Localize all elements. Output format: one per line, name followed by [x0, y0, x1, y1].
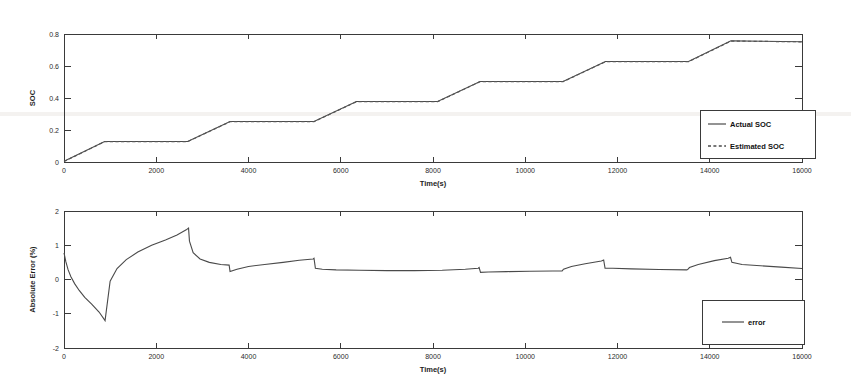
error-ytick-label-3: 1	[55, 242, 59, 249]
soc-xtick-label-3: 6000	[333, 167, 349, 174]
error-y-axis-title: Absolute Error (%)	[28, 246, 37, 313]
soc-xtick-label-8: 16000	[792, 167, 812, 174]
soc-estimated-series	[64, 41, 802, 161]
soc-ytick-label-0: 0	[55, 159, 59, 166]
soc-xtick-label-5: 10000	[516, 167, 536, 174]
soc-ytick-label-4: 0.8	[49, 31, 59, 38]
error-xtick-label-6: 12000	[608, 353, 628, 360]
error-xtick-label-4: 8000	[425, 353, 441, 360]
soc-x-axis-title: Time(s)	[420, 179, 447, 188]
soc-ytick-label-2: 0.4	[49, 95, 59, 102]
error-xtick-label-1: 2000	[148, 353, 164, 360]
soc-actual-series	[64, 41, 802, 161]
error-ytick-label-4: 2	[55, 208, 59, 215]
soc-legend[interactable]: Actual SOC Estimated SOC	[700, 110, 815, 158]
legend-label-estimated-soc: Estimated SOC	[730, 142, 785, 151]
error-xtick-label-2: 4000	[241, 353, 257, 360]
error-xtick-label-5: 10000	[516, 353, 536, 360]
soc-plot-frame	[64, 34, 802, 162]
soc-chart-panel: 0 0.2 0.4 0.6 0.8	[0, 0, 851, 196]
soc-xtick-label-4: 8000	[425, 167, 441, 174]
soc-y-axis-title: SOC	[28, 89, 37, 106]
soc-xtick-label-1: 2000	[148, 167, 164, 174]
soc-ytick-label-3: 0.6	[49, 63, 59, 70]
error-legend[interactable]: error	[702, 300, 804, 344]
soc-xtick-label-2: 4000	[241, 167, 257, 174]
error-ytick-label-1: -1	[53, 310, 59, 317]
error-series	[64, 228, 802, 320]
error-ytick-label-2: 0	[55, 276, 59, 283]
legend-label-error: error	[748, 318, 766, 327]
error-chart-svg: -2 -1 0 1 2	[0, 196, 851, 381]
soc-ytick-label-1: 0.2	[49, 127, 59, 134]
soc-xtick-label-6: 12000	[608, 167, 628, 174]
legend-label-actual-soc: Actual SOC	[730, 120, 772, 129]
soc-chart-svg: 0 0.2 0.4 0.6 0.8	[0, 0, 851, 196]
error-xtick-label-0: 0	[62, 353, 66, 360]
error-xtick-label-8: 16000	[792, 353, 812, 360]
error-y-ticks	[64, 211, 802, 348]
soc-xtick-label-7: 14000	[700, 167, 720, 174]
error-x-axis-title: Time(s)	[420, 365, 447, 374]
error-x-ticks	[64, 211, 802, 348]
error-ytick-label-0: -2	[53, 345, 59, 352]
figure-container: 0 0.2 0.4 0.6 0.8	[0, 0, 851, 381]
error-chart-panel: -2 -1 0 1 2	[0, 196, 851, 381]
error-xtick-label-7: 14000	[700, 353, 720, 360]
soc-y-ticks	[64, 34, 802, 162]
soc-x-ticks	[64, 34, 802, 162]
soc-xtick-label-0: 0	[62, 167, 66, 174]
error-plot-frame	[64, 211, 802, 348]
error-xtick-label-3: 6000	[333, 353, 349, 360]
